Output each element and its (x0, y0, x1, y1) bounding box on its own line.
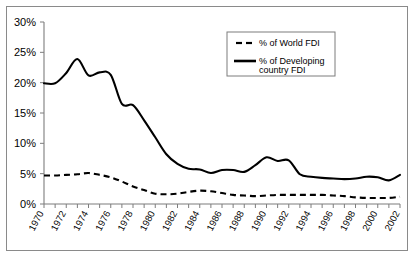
x-tick-label: 1972 (48, 209, 68, 233)
y-axis: 0%5%10%15%20%25%30% (14, 16, 44, 210)
series-line-developing-country-fdi (44, 59, 400, 180)
legend-label-world-fdi: % of World FDI (259, 38, 320, 48)
x-tick-label: 1974 (71, 209, 91, 233)
y-tick-label: 15% (14, 107, 36, 119)
x-tick-label: 2002 (382, 209, 402, 233)
plot-series-group (44, 59, 400, 198)
x-tick-label: 1996 (315, 209, 335, 233)
y-tick-label: 10% (14, 137, 36, 149)
x-tick-label: 1990 (249, 209, 269, 233)
x-tick-label: 1984 (182, 209, 202, 233)
x-tick-label: 1994 (293, 209, 313, 233)
x-tick-label: 1978 (115, 209, 135, 233)
y-tick-label: 30% (14, 16, 36, 28)
x-tick-label: 1986 (204, 209, 224, 233)
y-tick-label: 25% (14, 46, 36, 58)
x-axis: 1970197219741976197819801982198419861988… (26, 204, 402, 233)
y-tick-label: 5% (20, 168, 36, 180)
x-tick-label: 1982 (160, 209, 180, 233)
x-tick-labels: 1970197219741976197819801982198419861988… (26, 209, 402, 233)
x-tick-label: 1988 (226, 209, 246, 233)
series-line-world-fdi (44, 173, 400, 198)
x-tick-marks (44, 204, 400, 208)
x-tick-label: 1992 (271, 209, 291, 233)
y-tick-label: 0% (20, 198, 36, 210)
y-tick-labels: 0%5%10%15%20%25%30% (14, 16, 36, 210)
y-tick-label: 20% (14, 77, 36, 89)
x-tick-label: 1976 (93, 209, 113, 233)
x-tick-label: 1998 (338, 209, 358, 233)
x-tick-label: 2000 (360, 209, 380, 233)
y-tick-marks (40, 22, 44, 204)
x-tick-label: 1980 (137, 209, 157, 233)
x-tick-label: 1970 (26, 209, 46, 233)
chart-legend: % of World FDI % of Developing country F… (227, 32, 335, 76)
chart-svg: 0%5%10%15%20%25%30% 19701972197419761978… (0, 0, 416, 261)
legend-label-developing-fdi-line2: country FDI (259, 65, 306, 75)
fdi-share-line-chart: 0%5%10%15%20%25%30% 19701972197419761978… (0, 0, 416, 261)
